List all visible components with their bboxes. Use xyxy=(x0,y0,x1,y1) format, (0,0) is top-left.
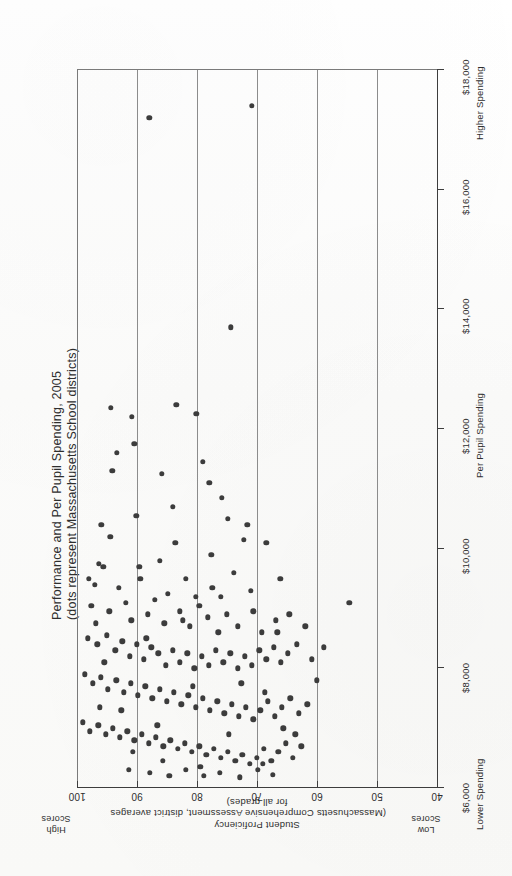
scatter-dot xyxy=(171,690,176,695)
scatter-dot xyxy=(85,636,90,641)
scatter-dot xyxy=(86,576,91,581)
scatter-dot xyxy=(90,681,95,686)
scatter-dot xyxy=(283,740,288,745)
scatter-dot xyxy=(182,740,187,745)
scatter-dot xyxy=(201,773,206,778)
scatter-dot xyxy=(243,705,248,710)
scatter-dot xyxy=(124,728,129,733)
scatter-dot xyxy=(177,660,182,665)
scatter-dot xyxy=(134,642,139,647)
scatter-dot xyxy=(103,731,108,736)
scatter-dot xyxy=(193,411,198,416)
scatter-dot xyxy=(183,576,188,581)
scatter-dot xyxy=(174,402,179,407)
scatter-dot xyxy=(172,540,177,545)
scatter-dot xyxy=(139,731,144,736)
scatter-dot xyxy=(190,684,195,689)
scatter-dot xyxy=(135,693,140,698)
proficiency-axis-line xyxy=(77,787,438,788)
scatter-dot xyxy=(163,663,168,668)
scatter-dot xyxy=(238,681,243,686)
spending-tick-label-10000: $10,000 xyxy=(460,538,471,574)
scatter-dot xyxy=(298,743,303,748)
spending-tick-label-16000: $16,000 xyxy=(460,179,471,215)
scatter-dot xyxy=(218,755,223,760)
scatter-dot xyxy=(292,731,297,736)
spending-tick-12000 xyxy=(437,428,444,429)
scatter-dot xyxy=(146,740,151,745)
scatter-dot xyxy=(244,522,249,527)
scatter-dot xyxy=(279,705,284,710)
scatter-dot xyxy=(264,540,269,545)
high-scores-note: High Scores xyxy=(30,812,82,835)
scatter-dot xyxy=(205,615,210,620)
scatter-dot xyxy=(118,708,123,713)
spending-tick-label-18000: $18,000 xyxy=(460,59,471,95)
scatter-dot xyxy=(268,758,273,763)
spending-tick-label-8000: $8,000 xyxy=(460,663,471,693)
scatter-dot xyxy=(150,696,155,701)
scatter-dot xyxy=(247,761,252,766)
scatter-dot xyxy=(260,761,265,766)
scatter-dot xyxy=(200,459,205,464)
scatter-dot xyxy=(88,603,93,608)
scatter-dot xyxy=(229,702,234,707)
scatter-dot xyxy=(180,618,185,623)
scatter-dot xyxy=(168,737,173,742)
scatter-dot xyxy=(288,696,293,701)
chart-title: Performance and Per Pupil Spending, 2005 xyxy=(50,371,64,620)
scatter-dot xyxy=(235,624,240,629)
scatter-dot xyxy=(204,752,209,757)
scatter-dot xyxy=(141,657,146,662)
scatter-dot xyxy=(296,711,301,716)
scatter-dot xyxy=(228,325,233,330)
scatter-dot xyxy=(114,678,119,683)
scatter-dot xyxy=(184,651,189,656)
spending-tick-10000 xyxy=(437,548,444,549)
scatter-dot xyxy=(290,755,295,760)
scatter-dot xyxy=(278,660,283,665)
scatter-dot xyxy=(213,648,218,653)
gridline-score-70 xyxy=(257,70,258,788)
scatter-dot xyxy=(231,570,236,575)
scatter-dot xyxy=(156,651,161,656)
scatter-dot xyxy=(222,711,227,716)
scatter-dot xyxy=(147,770,152,775)
proficiency-tick-label-100: 100 xyxy=(61,791,93,802)
scatter-dot xyxy=(100,564,105,569)
scatter-dot xyxy=(270,772,275,777)
scatter-dot xyxy=(112,648,117,653)
scatter-dot xyxy=(116,585,121,590)
scatter-dot xyxy=(220,660,225,665)
chart-page: Performance and Per Pupil Spending, 2005… xyxy=(0,0,512,876)
scatter-dot xyxy=(166,773,171,778)
scatter-dot xyxy=(250,716,255,721)
scatter-dot xyxy=(170,504,175,509)
scatter-dot xyxy=(207,480,212,485)
scatter-dot xyxy=(242,654,247,659)
scatter-dot xyxy=(198,764,203,769)
low-scores-line-2: Scores xyxy=(400,812,452,823)
scatter-dot xyxy=(170,648,175,653)
scatter-dot xyxy=(218,594,223,599)
scatter-dot xyxy=(93,621,98,626)
proficiency-axis-subtitle-2: for all grades) xyxy=(128,797,386,808)
scatter-dot xyxy=(236,713,241,718)
scatter-dot xyxy=(273,618,278,623)
scatter-dot xyxy=(159,471,164,476)
scatter-dot xyxy=(183,767,188,772)
scatter-dot xyxy=(262,690,267,695)
scatter-dot xyxy=(228,651,233,656)
scatter-dot xyxy=(105,687,110,692)
scatter-dot xyxy=(130,749,135,754)
scatter-dot xyxy=(294,642,299,647)
scatter-dot xyxy=(104,633,109,638)
scatter-dot xyxy=(94,642,99,647)
scatter-dot xyxy=(309,657,314,662)
scatter-dot xyxy=(160,758,165,763)
scatter-dot xyxy=(138,576,143,581)
scatter-dot xyxy=(249,103,254,108)
scatter-dot xyxy=(256,648,261,653)
scatter-dot xyxy=(129,414,134,419)
scatter-dot xyxy=(127,654,132,659)
